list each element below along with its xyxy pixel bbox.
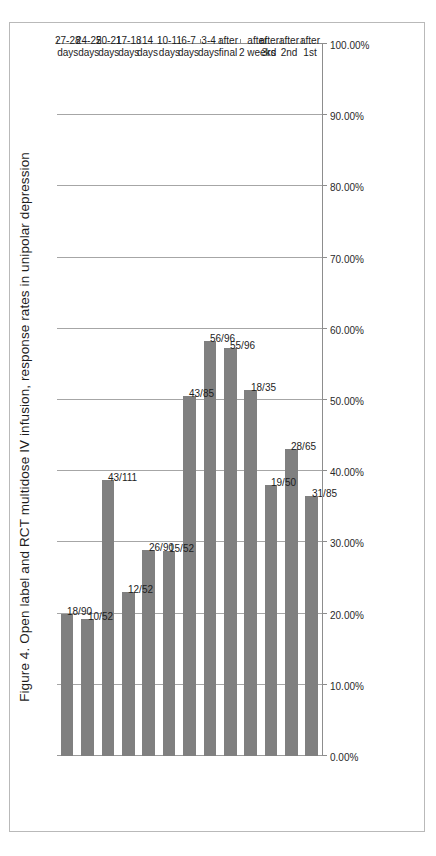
category-axis-label-text: after2nd: [279, 35, 299, 58]
chart-root: Figure 4. Open label and RCT multidose I…: [11, 24, 423, 830]
value-axis-tick: [322, 755, 327, 756]
bar[interactable]: [81, 619, 94, 756]
value-axis-label-text: 20.00%: [330, 610, 364, 621]
bar-value-label: 19/50: [271, 477, 296, 488]
value-axis-label-text: 80.00%: [330, 182, 364, 193]
value-axis-tick: [322, 684, 327, 685]
bar-slot: 15/52: [159, 44, 179, 756]
bar-value-label: 18/90: [67, 605, 92, 616]
bar-value-label: 26/90: [149, 542, 174, 553]
bar-value-label: 12/52: [128, 583, 153, 594]
bar-slot: 43/85: [179, 44, 199, 756]
category-label-line-2: 2 weeks: [239, 47, 276, 59]
value-axis-label-text: 40.00%: [330, 467, 364, 478]
bar[interactable]: [61, 614, 74, 756]
category-label-line-2: 2nd: [279, 47, 299, 59]
bar-value-label: 43/111: [108, 472, 137, 483]
bar-slot: 28/65: [281, 44, 301, 756]
value-axis-label-text: 90.00%: [330, 111, 364, 122]
value-axis-label-text: 50.00%: [330, 396, 364, 407]
value-axis-tick: [322, 185, 327, 186]
category-label-line-2: days: [198, 47, 219, 59]
bar-slot: 19/50: [261, 44, 281, 756]
category-label-line-1: after: [279, 35, 299, 47]
bar[interactable]: [122, 592, 135, 756]
category-axis-label-text: after2 weeks: [239, 35, 276, 58]
bar[interactable]: [204, 341, 217, 756]
bar-slot: 31/85: [302, 44, 322, 756]
value-axis-tick: [322, 541, 327, 542]
bar-value-label: 31/85: [312, 488, 337, 499]
category-label-line-1: after: [300, 35, 320, 47]
bar-slot: 55/96: [220, 44, 240, 756]
category-label-line-2: 1st: [300, 47, 320, 59]
bar-slot: 43/111: [98, 44, 118, 756]
value-axis-tick: [322, 399, 327, 400]
value-axis-label-text: 0.00%: [330, 752, 358, 763]
bar-value-label: 18/35: [251, 381, 276, 392]
bar[interactable]: [244, 390, 257, 756]
chart-title: Figure 4. Open label and RCT multidose I…: [17, 24, 32, 830]
category-axis-label-text: afterfinal: [218, 35, 238, 58]
value-axis-tick: [322, 257, 327, 258]
bar[interactable]: [163, 551, 176, 756]
value-axis-label-text: 10.00%: [330, 681, 364, 692]
category-label-line-1: after: [239, 35, 276, 47]
category-axis-label-text: 27-28days: [55, 35, 81, 58]
bar[interactable]: [265, 485, 278, 756]
bar-value-label: 28/65: [291, 441, 316, 452]
value-axis-tick: [322, 43, 327, 44]
bar[interactable]: [305, 496, 318, 756]
bar-slot: 56/96: [200, 44, 220, 756]
value-axis-tick: [322, 613, 327, 614]
bar-value-label: 56/96: [210, 332, 235, 343]
rotated-chart-stage: Figure 4. Open label and RCT multidose I…: [11, 24, 423, 830]
value-axis-label-text: 70.00%: [330, 254, 364, 265]
category-label-line-2: final: [218, 47, 238, 59]
value-axis-label-text: 100.00%: [330, 40, 369, 51]
value-axis-tick: [322, 328, 327, 329]
bar[interactable]: [183, 396, 196, 756]
bar[interactable]: [142, 550, 155, 756]
category-axis-label-text: 10-11days: [157, 35, 182, 58]
value-axis-label-text: 30.00%: [330, 538, 364, 549]
category-label-line-2: days: [157, 47, 182, 59]
plot-area: 31/8528/6519/5018/3555/9656/9643/8515/52…: [57, 44, 322, 756]
value-axis: [322, 44, 323, 756]
value-axis-label-text: 60.00%: [330, 325, 364, 336]
bar-slot: 18/90: [57, 44, 77, 756]
category-label-line-1: 3-4: [198, 35, 219, 47]
category-label-line-1: 27-28: [55, 35, 81, 47]
bar[interactable]: [285, 449, 298, 756]
bar-slot: 12/52: [118, 44, 138, 756]
figure-page-frame: Figure 4. Open label and RCT multidose I…: [9, 22, 425, 832]
bar-slot: 26/90: [139, 44, 159, 756]
value-axis-tick: [322, 114, 327, 115]
value-axis-tick: [322, 470, 327, 471]
bar[interactable]: [224, 348, 237, 756]
category-label-line-1: after: [218, 35, 238, 47]
bar-slot: 18/35: [240, 44, 260, 756]
bars-layer: 31/8528/6519/5018/3555/9656/9643/8515/52…: [57, 44, 322, 756]
category-label-line-1: 10-11: [157, 35, 182, 47]
category-axis-label-text: 3-4days: [198, 35, 219, 58]
category-label-line-2: days: [55, 47, 81, 59]
bar-value-label: 43/85: [189, 387, 214, 398]
category-axis-label-text: after1st: [300, 35, 320, 58]
bar-slot: 10/52: [77, 44, 97, 756]
